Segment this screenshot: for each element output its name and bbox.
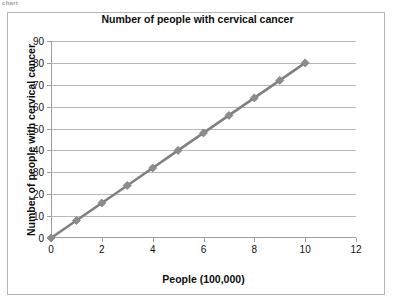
x-axis-tick <box>305 238 306 242</box>
y-axis-tick-label: 0 <box>38 233 44 244</box>
y-axis-tick-label: 20 <box>33 189 44 200</box>
x-axis-tick-label: 4 <box>150 244 156 255</box>
x-axis-tick <box>356 238 357 242</box>
x-axis-tick <box>254 238 255 242</box>
chart-title: Number of people with cervical cancer <box>0 13 395 25</box>
x-axis-tick-label: 8 <box>252 244 258 255</box>
x-axis-title: People (100,000) <box>51 273 356 285</box>
y-axis-tick-label: 70 <box>33 79 44 90</box>
stray-caption-text: chart <box>2 0 18 6</box>
x-axis-tick-label: 2 <box>99 244 105 255</box>
x-axis-tick <box>102 238 103 242</box>
y-axis-tick-label: 80 <box>33 57 44 68</box>
y-axis-tick-label: 40 <box>33 145 44 156</box>
y-axis-tick-label: 30 <box>33 167 44 178</box>
x-axis-tick-label: 0 <box>48 244 54 255</box>
y-axis-tick-label: 60 <box>33 101 44 112</box>
data-series <box>51 41 356 238</box>
y-axis-tick-label: 90 <box>33 36 44 47</box>
y-axis-tick-label: 50 <box>33 123 44 134</box>
x-axis-tick-label: 10 <box>300 244 311 255</box>
x-axis-tick <box>153 238 154 242</box>
x-axis-tick-label: 12 <box>350 244 361 255</box>
y-axis-title-label: Number of people with cervical cancer <box>25 44 37 236</box>
y-axis-title: Number of people with cervical cancer <box>24 40 38 239</box>
x-axis-tick-label: 6 <box>201 244 207 255</box>
plot-area: 0102030405060708090 024681012 <box>51 41 356 238</box>
y-axis-tick-label: 10 <box>33 211 44 222</box>
x-axis-tick <box>204 238 205 242</box>
